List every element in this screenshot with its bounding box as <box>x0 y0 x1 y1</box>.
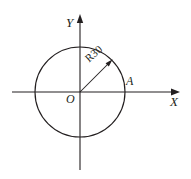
point-a-label: A <box>126 75 133 87</box>
x-axis-label: X <box>170 95 178 108</box>
figure-canvas <box>0 0 191 179</box>
geometry-figure: Y X O A R30 <box>0 0 191 179</box>
y-axis-label: Y <box>66 16 73 29</box>
radius-leader-line <box>80 63 110 93</box>
y-axis-arrow-icon <box>77 14 83 23</box>
origin-label: O <box>66 93 75 105</box>
